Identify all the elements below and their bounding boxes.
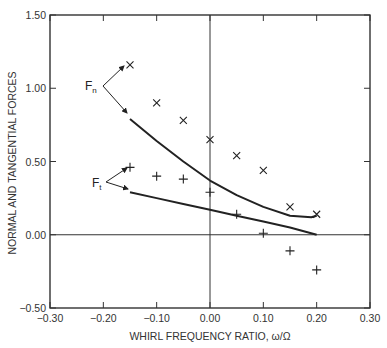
y-tick-label: −0.50 [19,302,46,314]
x-tick-label: 0.00 [200,312,221,324]
fn-data-point [180,117,187,124]
y-tick-label: 1.00 [26,82,47,94]
x-tick-label: 0.30 [360,312,381,324]
x-tick-label: 0.10 [253,312,274,324]
fn-data-point [233,152,240,159]
data-series [126,61,322,274]
ft-data-point [286,246,295,255]
ft-arrow-up [106,168,127,182]
annotations: Fn Ft [85,66,128,192]
theory-curve [130,192,317,234]
fn-arrow-up [103,66,124,86]
fn-label: Fn [85,79,97,95]
ft-data-point [126,163,135,172]
fn-data-point [153,99,160,106]
chart: −0.30−0.20−0.100.000.100.200.30−0.500.00… [0,0,387,348]
axis-ticks: −0.30−0.20−0.100.000.100.200.30−0.500.00… [19,9,380,324]
fn-data-point [287,203,294,210]
y-axis-label: NORMAL AND TANGENTIAL FORCES [6,71,18,254]
y-tick-label: 1.50 [26,9,47,21]
x-axis-label: WHIRL FREQUENCY RATIO, ω/Ω [129,330,290,342]
ft-data-point [152,172,161,181]
y-tick-label: 0.50 [26,156,47,168]
ft-data-point [179,175,188,184]
theory-curve [130,119,317,217]
plot-frame [50,15,370,308]
y-tick-label: 0.00 [26,229,47,241]
fn-data-point [127,61,134,68]
ft-label: Ft [92,176,102,192]
x-tick-label: −0.10 [143,312,170,324]
ft-data-point [259,229,268,238]
ft-data-point [312,265,321,274]
fn-data-point [260,167,267,174]
ft-arrow-down [106,182,128,189]
ft-data-point [206,188,215,197]
x-tick-label: −0.20 [90,312,117,324]
x-tick-label: 0.20 [306,312,327,324]
fn-arrow-down [103,86,127,113]
